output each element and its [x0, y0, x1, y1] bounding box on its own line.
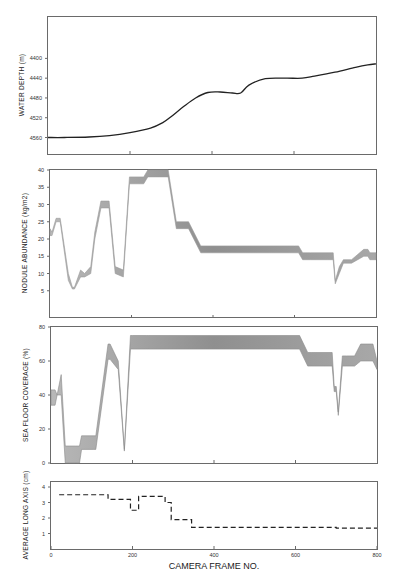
y-tick-label: 25: [38, 219, 44, 225]
y-tick-label: 35: [38, 184, 44, 190]
y-tick-label: 1: [42, 531, 45, 537]
y-tick-label: 40: [38, 167, 44, 173]
y-axis-label: AVERAGE LONG AXIS (cm): [22, 471, 30, 560]
y-tick-label: 15: [38, 253, 44, 259]
axes-frame: [50, 170, 377, 318]
y-tick-label: 4480: [30, 95, 42, 101]
y-tick-label: 10: [38, 271, 44, 277]
abundance-band: [50, 170, 376, 289]
y-tick-label: 20: [39, 426, 45, 432]
y-tick-label: 60: [39, 358, 45, 364]
axes-frame: [51, 482, 378, 550]
y-tick-label: 4: [42, 484, 45, 490]
panel-sea-floor-coverage: 020406080 SEA FLOOR COVERAGE (%): [22, 324, 378, 466]
y-tick-label: 5: [41, 288, 44, 294]
y-tick-label: 2: [42, 515, 45, 521]
x-tick-label: 600: [291, 552, 300, 558]
coverage-band: [51, 336, 377, 464]
y-axis-ticks: 1234: [42, 484, 51, 537]
y-tick-label: 20: [38, 236, 44, 242]
panel-nodule-abundance: 510152025303540 NODULE ABUNDANCE (kg/m2): [21, 167, 377, 318]
x-tick-label: 0: [49, 552, 52, 558]
y-axis-ticks: 510152025303540: [38, 167, 50, 294]
figure: 44004440448045204560 WATER DEPTH (m) 510…: [0, 0, 397, 579]
y-tick-label: 4520: [30, 115, 42, 121]
y-tick-label: 80: [39, 324, 45, 330]
y-tick-label: 0: [42, 460, 45, 466]
y-tick-label: 3: [42, 500, 45, 506]
panel-water-depth: 44004440448045204560 WATER DEPTH (m): [18, 17, 377, 155]
y-tick-label: 4440: [30, 75, 42, 81]
y-tick-label: 30: [38, 202, 44, 208]
long-axis-step-line: [59, 495, 377, 528]
x-tick-label: 200: [128, 552, 137, 558]
x-tick-label: 400: [209, 552, 218, 558]
y-axis-label: SEA FLOOR COVERAGE (%): [22, 348, 30, 442]
y-tick-label: 4400: [30, 55, 42, 61]
y-tick-label: 40: [39, 392, 45, 398]
depth-line: [48, 64, 376, 138]
y-axis-label: NODULE ABUNDANCE (kg/m2): [21, 193, 29, 293]
y-axis-label: WATER DEPTH (m): [18, 54, 26, 117]
y-axis-ticks: 020406080: [39, 324, 51, 466]
x-tick-label: 800: [372, 552, 381, 558]
y-axis-ticks: 44004440448045204560: [30, 55, 48, 140]
y-tick-label: 4560: [30, 135, 42, 141]
x-axis-label: CAMERA FRAME NO.: [169, 561, 260, 571]
axes-frame: [48, 17, 377, 155]
